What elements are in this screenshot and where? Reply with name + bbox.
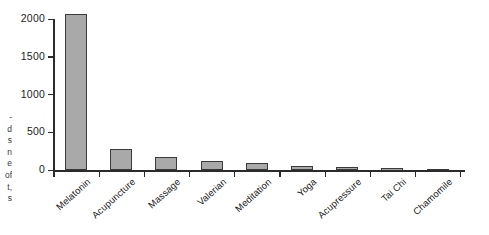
x-axis-line — [53, 170, 465, 172]
y-axis-tick — [48, 56, 54, 57]
bar-chart-figure: -dsneoft,s 0500100015002000 MelatoninAcu… — [0, 0, 489, 235]
x-axis-category-label: Tai Chi — [379, 176, 408, 204]
x-axis-category-label: Acupressure — [316, 176, 364, 221]
x-axis-category-label: Chamomile — [410, 176, 454, 217]
bar — [201, 161, 223, 170]
bar — [427, 169, 449, 171]
x-axis-category-label: Melatonin — [54, 176, 93, 212]
y-axis-tick-labels: 0500100015002000 — [0, 0, 45, 235]
x-axis-tick — [370, 171, 371, 177]
x-axis-tick — [53, 171, 54, 177]
y-axis-tick — [48, 132, 54, 133]
bar — [381, 168, 403, 170]
x-axis-tick — [99, 171, 100, 177]
bar — [246, 163, 268, 170]
y-axis-tick-label: 1500 — [5, 50, 45, 62]
x-axis-category-label: Acupuncture — [90, 176, 138, 221]
y-axis-tick-label: 500 — [5, 125, 45, 137]
x-axis-category-label: Yoga — [295, 176, 319, 199]
y-axis-tick-label: 2000 — [5, 12, 45, 24]
bar — [336, 167, 358, 170]
bar — [155, 157, 177, 170]
x-axis-category-label: Massage — [146, 176, 183, 210]
bar — [110, 149, 132, 170]
y-axis-tick-label: 1000 — [5, 88, 45, 100]
x-axis-tick — [144, 171, 145, 177]
x-axis-tick — [325, 171, 326, 177]
x-axis-tick — [415, 171, 416, 177]
bar — [65, 14, 87, 170]
x-axis-tick — [189, 171, 190, 177]
x-axis-category-label: Meditation — [232, 176, 273, 214]
x-axis-category-label: Valerian — [195, 176, 228, 208]
y-axis-tick-label: 0 — [5, 163, 45, 175]
x-axis-tick — [279, 171, 280, 177]
plot-area: 0500100015002000 MelatoninAcupunctureMas… — [53, 0, 489, 235]
x-axis-tick — [234, 171, 235, 177]
x-axis-tick — [460, 171, 461, 177]
bar — [291, 166, 313, 170]
y-axis-tick — [48, 94, 54, 95]
y-axis-tick — [48, 19, 54, 20]
